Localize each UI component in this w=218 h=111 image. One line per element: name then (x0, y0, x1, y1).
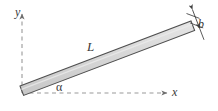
width-label: b (198, 18, 204, 30)
angle-label: α (56, 81, 62, 93)
diagram-svg (0, 0, 218, 111)
length-label: L (87, 40, 94, 53)
y-axis-label: y (15, 6, 20, 18)
inclined-bar (20, 21, 195, 95)
x-axis-label: x (172, 86, 177, 98)
figure-canvas: y x L b α (0, 0, 218, 111)
bar-highlight-line (21, 24, 192, 89)
